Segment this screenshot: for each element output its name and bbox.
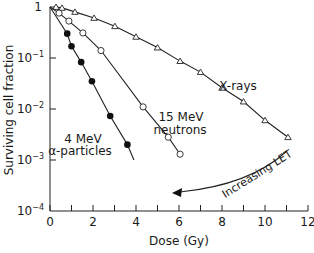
open-circle-marker-icon (56, 10, 62, 16)
series-label: α-particles (48, 144, 112, 158)
filled-circle-marker-icon (107, 113, 114, 120)
open-circle-marker-icon (66, 18, 72, 24)
series-label: X-rays (219, 79, 257, 93)
x-tick-label: 4 (132, 215, 140, 229)
filled-circle-marker-icon (78, 59, 85, 66)
triangle-marker-icon (154, 45, 160, 50)
open-circle-marker-icon (80, 30, 86, 36)
open-circle-marker-icon (177, 151, 183, 157)
arrow-head-icon (172, 188, 182, 197)
x-tick-label: 2 (89, 215, 97, 229)
x-tick-label: 8 (218, 215, 226, 229)
series-label: neutrons (153, 123, 206, 137)
series-label: 15 MeV (158, 110, 204, 124)
triangle-marker-icon (177, 58, 183, 63)
x-tick-label: 6 (175, 215, 183, 229)
triangle-marker-icon (240, 99, 246, 104)
filled-circle-marker-icon (68, 43, 75, 50)
filled-circle-marker-icon (124, 141, 131, 148)
increasing-let-label: Increasing LET (220, 147, 295, 201)
y-tick-label: 10−1 (17, 50, 44, 65)
x-tick-label: 0 (46, 215, 54, 229)
y-axis-label: Surviving cell fraction (2, 45, 16, 176)
x-tick-label: 12 (300, 215, 314, 229)
filled-circle-marker-icon (89, 78, 96, 85)
increasing-let-annotation: Increasing LET (172, 147, 295, 201)
filled-circle-marker-icon (64, 30, 71, 37)
y-tick-label: 10−3 (17, 152, 44, 167)
x-tick-label: 10 (257, 215, 272, 229)
survival-curve-chart: 024681012110−110−210−310−4 X-rays15 MeVn… (0, 0, 314, 253)
x-axis-label: Dose (Gy) (149, 234, 209, 248)
axes (50, 7, 308, 211)
open-circle-marker-icon (140, 104, 146, 110)
open-circle-marker-icon (98, 47, 104, 53)
y-tick-label: 10−2 (17, 101, 44, 116)
triangle-marker-icon (197, 69, 203, 74)
y-tick-label: 10−4 (17, 203, 44, 218)
triangle-marker-icon (133, 34, 139, 39)
triangle-marker-icon (112, 23, 118, 28)
y-tick-label: 1 (34, 0, 42, 14)
